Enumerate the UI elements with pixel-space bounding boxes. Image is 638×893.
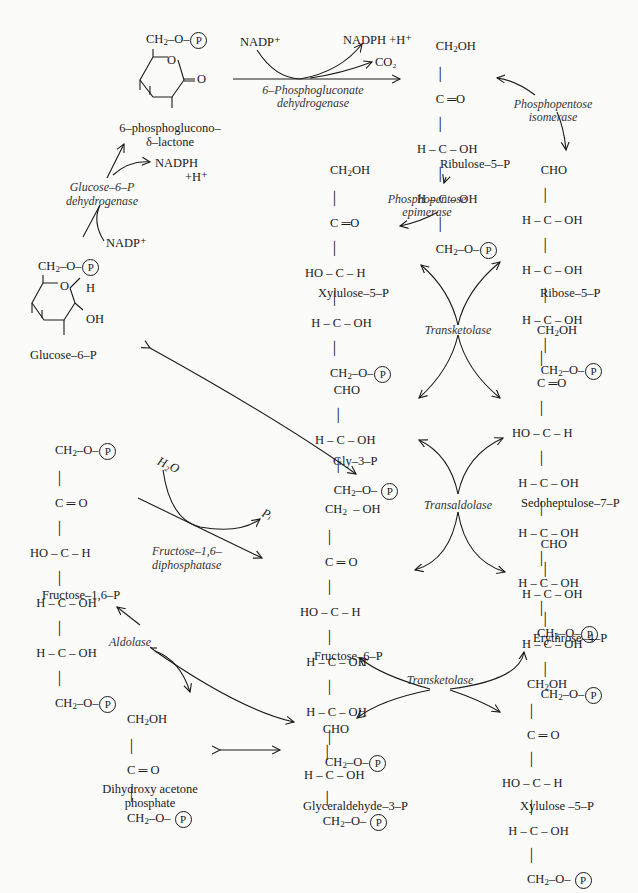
lactone-ch2-group: CH2–O–P (146, 32, 207, 49)
compound-label-lactone-2: δ–lactone (146, 136, 194, 149)
compound-label-lactone: 6–phosphoglucono– (119, 122, 220, 135)
phosphate-circle: P (99, 696, 116, 713)
enzyme-fbpase-2: diphosphatase (152, 559, 221, 572)
compound-label-dhap: Dihydroxy acetone (102, 783, 197, 796)
compound-label-sedoheptulose-7-p: Sedoheptulose–7–P (521, 497, 620, 510)
compound-label-ribulose-5-p: Ribulose–5–P (440, 158, 510, 171)
ring-oxygen: O (167, 54, 176, 67)
phosphate-circle: P (175, 811, 192, 828)
cofactor-h: +H⁺ (185, 171, 208, 184)
cofactor-nadp: NADP⁺ (106, 237, 147, 250)
glucose-ch2-group: CH2–O–P (38, 259, 99, 276)
phosphate-circle: P (99, 443, 116, 460)
ring-oxygen: O (60, 280, 69, 293)
enzyme-aldolase: Aldolase (109, 636, 151, 649)
compound-label-dhap-2: phosphate (125, 797, 176, 810)
structure-fructose-1-6-p: CH2–O–P │ C ═ O │ HO – C – H │ H – C – O… (30, 438, 116, 719)
phosphate-circle: P (82, 259, 99, 276)
enzyme-isomerase-2: isomerase (529, 111, 578, 124)
compound-label-xylulose-5-p-bottom: Xylulose –5–P (520, 800, 594, 813)
enzyme-epimerase-2: epimerase (402, 206, 451, 219)
cofactor-nadp-2: NADP⁺ (240, 36, 281, 49)
enzyme-g6pdh-2: dehydrogenase (66, 195, 138, 208)
hydroxyl: OH (86, 313, 104, 326)
cofactor-nadph-2: NADPH +H⁺ (343, 34, 412, 47)
enzyme-transaldolase: Transaldolase (424, 499, 492, 512)
compound-label-glyceraldehyde-3-p: Glyceraldehyde–3–P (303, 800, 408, 813)
compound-label-xylulose-5-p: Xylulose–5–P (318, 287, 389, 300)
compound-label-ribose-5-p: Ribose–5–P (540, 287, 600, 300)
compound-label-fructose-1-6-p: Fructose–1,6–P (42, 589, 120, 602)
enzyme-transketolase-2: Transketolase (407, 674, 474, 687)
enzyme-fbpase: Fructose–1,6– (152, 545, 222, 558)
enzyme-pgdh-2: dehydrogenase (277, 97, 349, 110)
phosphate-circle: P (190, 32, 207, 49)
compound-label-gly-3-p: Gly–3–P (333, 455, 377, 468)
hydrogen: H (86, 282, 95, 295)
structure-xylulose-5-p: CH2OH │ C ═O │ HO – C – H │ H – C – OH │… (305, 158, 391, 389)
phosphate-circle: P (480, 242, 497, 259)
cofactor-nadph: NADPH (155, 157, 198, 170)
enzyme-g6pdh: Glucose–6–P (70, 181, 135, 194)
phosphate-circle: P (575, 872, 592, 889)
compound-label-fructose-6-p: Fructose–6–P (314, 650, 383, 663)
compound-label-glucose-6-p: Glucose–6–P (30, 349, 97, 362)
structure-xylulose-5-p-bottom: CH2OH │ C ═ O │ HO – C – H │ H – C – OH … (502, 672, 592, 893)
phosphate-circle: P (370, 814, 387, 831)
enzyme-transketolase-1: Transketolase (425, 324, 492, 337)
compound-label-erythrose-4-p: Erythrose–4–P (533, 632, 607, 645)
structure-dhap: CH2OH │ C ═ O │ CH2–O– P (127, 707, 192, 833)
structure-gly-3-p: CHO │ H – C – OH │ CH2–O– P (315, 378, 398, 506)
cofactor-co2: CO₂ (375, 56, 397, 69)
carbonyl-oxygen: O (197, 73, 206, 86)
structure-ribulose-5-p: CH2OH │ C ═O │ H – C – OH │ H – C – OH │… (417, 34, 497, 265)
structure-glyceraldehyde-3-p: CHO │ H – C – OH │ CH2–O– P (304, 718, 387, 836)
